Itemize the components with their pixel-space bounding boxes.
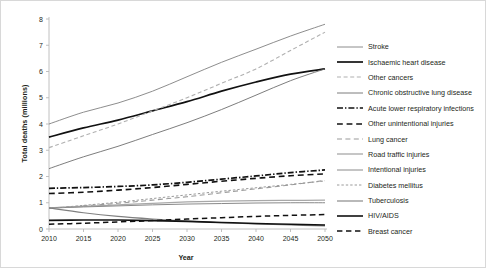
series-line-intentional-injuries bbox=[49, 203, 325, 208]
legend-label-hiv-aids: HIV/AIDS bbox=[368, 211, 399, 220]
y-tick-label: 4 bbox=[39, 121, 43, 128]
legend-swatch-stroke bbox=[337, 41, 363, 53]
legend-swatch-acute-lower-respiratory-infections bbox=[337, 102, 363, 114]
legend-label-stroke: Stroke bbox=[368, 42, 389, 51]
series-line-chronic-obstructive-lung-disease bbox=[49, 69, 325, 169]
line-chart-svg: 0123456782010201520202025203020352040204… bbox=[1, 1, 337, 269]
x-tick-label: 2050 bbox=[317, 235, 333, 242]
legend-label-breast-cancer: Breast cancer bbox=[368, 227, 412, 236]
legend-item-other-unintentional-injuries[interactable]: Other unintentional injuries bbox=[337, 116, 487, 131]
x-axis-title: Year bbox=[46, 253, 326, 262]
legend-item-hiv-aids[interactable]: HIV/AIDS bbox=[337, 208, 487, 223]
legend-item-tuberculosis[interactable]: Tuberculosis bbox=[337, 193, 487, 208]
y-tick-label: 5 bbox=[39, 94, 43, 101]
legend-item-acute-lower-respiratory-infections[interactable]: Acute lower respiratory infections bbox=[337, 101, 487, 116]
series-line-stroke bbox=[49, 24, 325, 124]
x-tick-label: 2025 bbox=[145, 235, 161, 242]
legend-swatch-road-traffic-injuries bbox=[337, 148, 363, 160]
y-tick-label: 1 bbox=[39, 199, 43, 206]
series-line-tuberculosis bbox=[49, 208, 325, 226]
y-tick-label: 3 bbox=[39, 147, 43, 154]
legend-item-ischaemic-heart-disease[interactable]: Ischaemic heart disease bbox=[337, 54, 487, 69]
legend-swatch-other-unintentional-injuries bbox=[337, 118, 363, 130]
legend-item-road-traffic-injuries[interactable]: Road traffic injuries bbox=[337, 147, 487, 162]
series-line-ischaemic-heart-disease bbox=[49, 69, 325, 137]
x-tick-label: 2030 bbox=[179, 235, 195, 242]
legend-item-other-cancers[interactable]: Other cancers bbox=[337, 70, 487, 85]
y-tick-label: 7 bbox=[39, 42, 43, 49]
legend-item-chronic-obstructive-lung-disease[interactable]: Chronic obstructive lung disease bbox=[337, 85, 487, 100]
legend-item-diabetes-mellitus[interactable]: Diabetes mellitus bbox=[337, 178, 487, 193]
chart-legend: StrokeIschaemic heart diseaseOther cance… bbox=[337, 39, 487, 239]
x-tick-label: 2035 bbox=[214, 235, 230, 242]
legend-swatch-lung-cancer bbox=[337, 133, 363, 145]
x-tick-label: 2045 bbox=[283, 235, 299, 242]
x-tick-label: 2010 bbox=[41, 235, 57, 242]
legend-label-road-traffic-injuries: Road traffic injuries bbox=[368, 150, 429, 159]
legend-label-ischaemic-heart-disease: Ischaemic heart disease bbox=[368, 58, 446, 67]
legend-swatch-other-cancers bbox=[337, 71, 363, 83]
y-tick-label: 6 bbox=[39, 68, 43, 75]
legend-label-other-unintentional-injuries: Other unintentional injuries bbox=[368, 119, 454, 128]
legend-label-chronic-obstructive-lung-disease: Chronic obstructive lung disease bbox=[368, 88, 472, 97]
y-tick-label: 8 bbox=[39, 16, 43, 23]
y-tick-label: 0 bbox=[39, 226, 43, 233]
legend-label-acute-lower-respiratory-infections: Acute lower respiratory infections bbox=[368, 104, 474, 113]
legend-label-tuberculosis: Tuberculosis bbox=[368, 196, 408, 205]
y-axis-title: Total deaths (millions) bbox=[20, 54, 29, 194]
chart-figure: 0123456782010201520202025203020352040204… bbox=[0, 0, 486, 268]
series-line-hiv-aids bbox=[49, 220, 325, 225]
legend-item-lung-cancer[interactable]: Lung cancer bbox=[337, 131, 487, 146]
plot-area: 0123456782010201520202025203020352040204… bbox=[1, 1, 337, 269]
x-tick-label: 2020 bbox=[110, 235, 126, 242]
legend-swatch-intentional-injuries bbox=[337, 164, 363, 176]
legend-swatch-chronic-obstructive-lung-disease bbox=[337, 87, 363, 99]
x-tick-label: 2015 bbox=[76, 235, 92, 242]
x-tick-label: 2040 bbox=[248, 235, 264, 242]
legend-label-lung-cancer: Lung cancer bbox=[368, 135, 408, 144]
legend-label-intentional-injuries: Intentional injuries bbox=[368, 165, 426, 174]
y-tick-label: 2 bbox=[39, 173, 43, 180]
legend-label-other-cancers: Other cancers bbox=[368, 73, 413, 82]
series-line-other-cancers bbox=[49, 32, 325, 148]
legend-item-stroke[interactable]: Stroke bbox=[337, 39, 487, 54]
legend-swatch-tuberculosis bbox=[337, 195, 363, 207]
legend-swatch-hiv-aids bbox=[337, 210, 363, 222]
legend-swatch-diabetes-mellitus bbox=[337, 179, 363, 191]
series-line-other-unintentional-injuries bbox=[49, 174, 325, 194]
legend-swatch-ischaemic-heart-disease bbox=[337, 56, 363, 68]
legend-item-intentional-injuries[interactable]: Intentional injuries bbox=[337, 162, 487, 177]
legend-item-breast-cancer[interactable]: Breast cancer bbox=[337, 224, 487, 239]
legend-label-diabetes-mellitus: Diabetes mellitus bbox=[368, 181, 423, 190]
legend-swatch-breast-cancer bbox=[337, 225, 363, 237]
